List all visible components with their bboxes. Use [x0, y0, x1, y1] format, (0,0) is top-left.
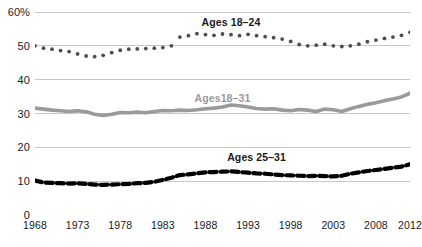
- data-point: [178, 35, 182, 39]
- y-axis: 60%50403020100: [0, 0, 30, 247]
- series-annotation-label: Ages 18–24: [202, 16, 261, 28]
- data-point: [84, 54, 88, 58]
- y-axis-tick-label: 10: [18, 175, 30, 187]
- series-annotation-label: Ages 25–31: [227, 151, 286, 163]
- data-point: [238, 34, 242, 38]
- series-annotation-label: Ages18–31: [195, 92, 251, 104]
- x-axis-tick-label: 2012: [398, 219, 422, 231]
- data-point: [289, 40, 293, 44]
- data-point: [391, 35, 395, 39]
- data-point: [59, 49, 63, 53]
- data-point: [357, 42, 361, 46]
- data-point: [187, 34, 191, 38]
- data-point: [161, 46, 165, 50]
- x-axis-tick-label: 1983: [151, 219, 175, 231]
- x-axis-tick-label: 1993: [236, 219, 260, 231]
- data-point: [118, 48, 122, 52]
- data-point: [280, 37, 284, 41]
- x-axis-tick-label: 2003: [321, 219, 345, 231]
- data-point: [110, 51, 114, 55]
- data-point: [323, 42, 327, 46]
- data-point: [76, 52, 80, 56]
- data-point: [144, 47, 148, 51]
- data-point: [42, 46, 46, 50]
- data-point: [383, 36, 387, 40]
- x-axis-tick-label: 1973: [66, 219, 90, 231]
- y-axis-tick-label: 20: [18, 141, 30, 153]
- data-point: [297, 43, 301, 47]
- data-point: [50, 47, 54, 51]
- data-point: [314, 43, 318, 47]
- data-point: [101, 53, 105, 57]
- x-axis-tick-label: 1988: [194, 219, 218, 231]
- data-point: [67, 50, 71, 54]
- data-point: [365, 40, 369, 44]
- data-point: [135, 47, 139, 51]
- data-point: [263, 35, 267, 39]
- chart-svg: [35, 12, 410, 215]
- data-point: [204, 33, 208, 37]
- data-point: [169, 44, 173, 48]
- x-axis-tick-label: 2008: [364, 219, 388, 231]
- plot-area: [35, 12, 410, 215]
- data-point: [152, 46, 156, 50]
- x-axis-tick-label: 1968: [23, 219, 47, 231]
- y-axis-tick-label: 30: [18, 108, 30, 120]
- data-point: [255, 34, 259, 38]
- data-point: [331, 44, 335, 48]
- data-point: [348, 44, 352, 48]
- data-point: [340, 45, 344, 49]
- y-axis-tick-label: 40: [18, 74, 30, 86]
- data-point: [374, 38, 378, 42]
- x-axis-tick-label: 1978: [108, 219, 132, 231]
- y-axis-tick-label: 60%: [8, 6, 30, 18]
- data-point: [272, 36, 276, 40]
- y-axis-tick-label: 50: [18, 40, 30, 52]
- x-axis: 1968197319781983198819931998200320082012: [35, 219, 410, 239]
- x-axis-tick-label: 1998: [279, 219, 303, 231]
- data-point: [229, 33, 233, 37]
- data-point: [400, 33, 404, 37]
- data-point: [195, 32, 199, 36]
- data-point: [221, 32, 225, 36]
- data-point: [35, 44, 37, 48]
- data-point: [93, 55, 97, 59]
- data-point: [408, 30, 410, 34]
- data-point: [127, 47, 131, 51]
- data-point: [306, 44, 310, 48]
- data-point: [246, 32, 250, 36]
- data-point: [212, 33, 216, 37]
- series-dashed: [35, 164, 410, 185]
- series-dotted: [35, 30, 410, 58]
